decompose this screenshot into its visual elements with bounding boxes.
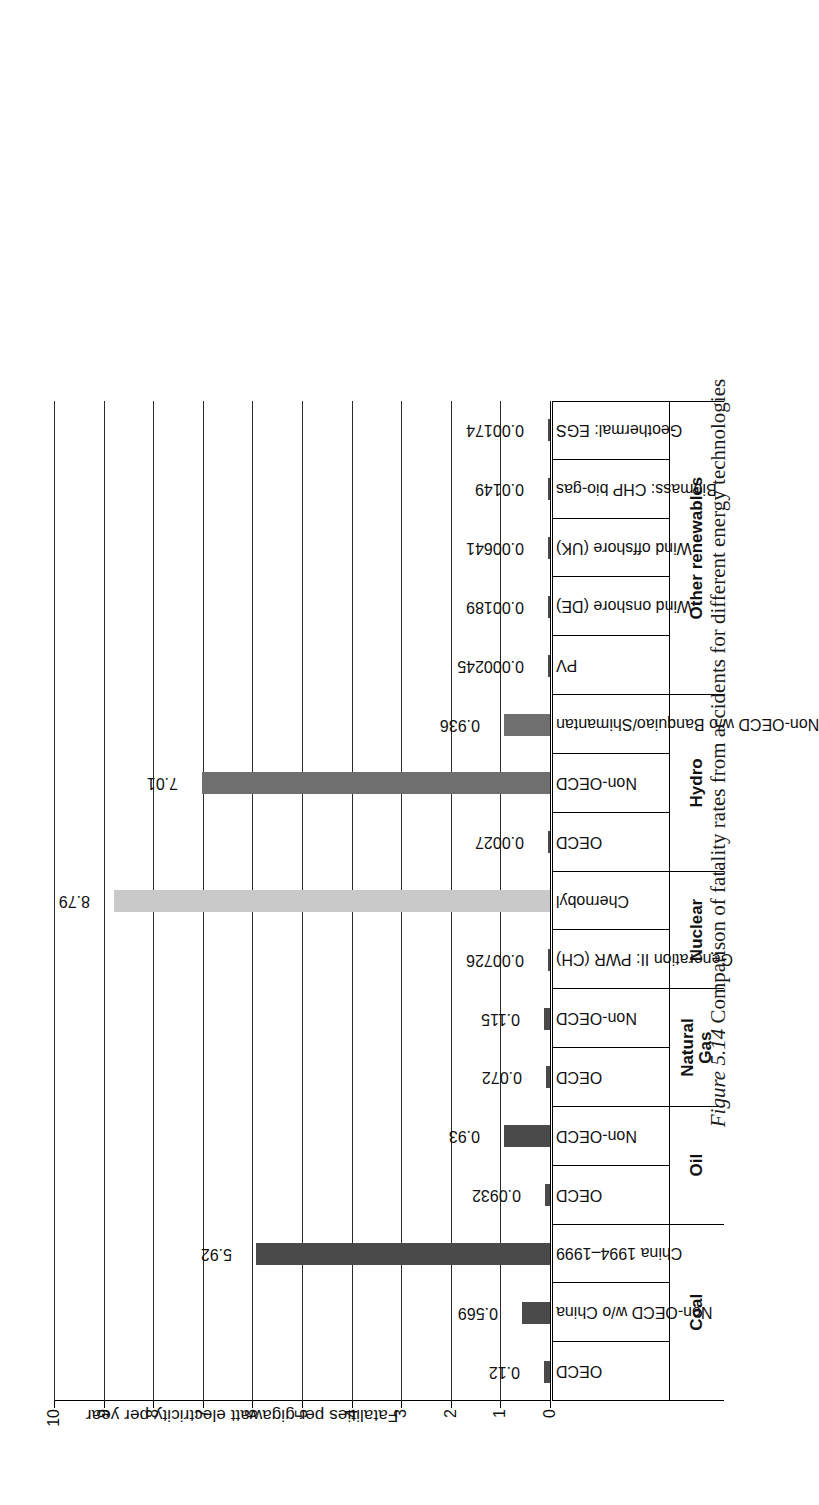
- bar: [548, 831, 550, 853]
- bar-slot: 7.01: [54, 753, 550, 812]
- category-cell: Generation II: PWR (CH): [552, 930, 670, 989]
- y-axis-tick-mark: [203, 1401, 204, 1408]
- category-cell: Biomass: CHP bio-gas: [552, 459, 670, 518]
- y-axis-tick-label: 9: [96, 1409, 112, 1435]
- y-axis-tick-label: 10: [46, 1409, 62, 1435]
- bar: [544, 1360, 550, 1382]
- y-axis-tick-label: 8: [145, 1409, 161, 1435]
- bar-series: 0.120.5695.920.09320.930.0720.1150.00726…: [54, 401, 550, 1401]
- y-axis-tick-mark: [401, 1401, 402, 1408]
- y-axis-tick-mark: [500, 1401, 501, 1408]
- y-axis-tick-label: 1: [492, 1409, 508, 1435]
- bar: [504, 1125, 550, 1147]
- y-axis-title: Fatalities per gigawatt electricity per …: [0, 1405, 552, 1425]
- category-cell: Non-OECD: [552, 753, 670, 812]
- y-axis-tick-label: 5: [294, 1409, 310, 1435]
- chart-frame: Fatalities per gigawatt electricity per …: [36, 33, 726, 1473]
- y-axis-tick-mark: [54, 1401, 55, 1408]
- category-cell: Non-OECD: [552, 1106, 670, 1165]
- bar-value-label: 0.000245: [457, 657, 524, 673]
- bar: [545, 1184, 550, 1206]
- category-label: OECD: [556, 1068, 602, 1084]
- bar-slot: 5.92: [54, 1224, 550, 1283]
- bar: [548, 478, 550, 500]
- bar-value-label: 0.00174: [466, 422, 524, 438]
- y-axis-tick-mark: [104, 1401, 105, 1408]
- bar-value-label: 0.569: [458, 1304, 498, 1320]
- y-axis-tick-label: 7: [195, 1409, 211, 1435]
- bar-value-label: 0.00189: [466, 598, 524, 614]
- bar: [548, 595, 550, 617]
- bar-value-label: 0.0149: [475, 481, 524, 497]
- category-cell: China 1994–1999: [552, 1224, 670, 1283]
- bar: [546, 1066, 550, 1088]
- category-cell: OECD: [552, 1048, 670, 1107]
- category-cell: Non-OECD w/o Banquiao/Shimantan: [552, 695, 670, 754]
- y-axis-tick-label: 4: [344, 1409, 360, 1435]
- y-axis-tick-mark: [550, 1401, 551, 1408]
- figure-number: Figure 5.14: [706, 1028, 730, 1126]
- y-axis-tick-mark: [352, 1401, 353, 1408]
- category-label: OECD: [556, 1186, 602, 1202]
- y-axis-tick-mark: [451, 1401, 452, 1408]
- bar-slot: 0.00726: [54, 930, 550, 989]
- bar-slot: 0.0149: [54, 459, 550, 518]
- bar-value-label: 0.00726: [466, 951, 524, 967]
- bar-value-label: 7.01: [147, 775, 178, 791]
- category-cell: PV: [552, 636, 670, 695]
- category-label: Geothermal: EGS: [556, 422, 682, 438]
- bar: [522, 1301, 550, 1323]
- category-cell: OECD: [552, 1342, 670, 1401]
- category-label: Non-OECD: [556, 1010, 637, 1026]
- bar-value-label: 0.0027: [475, 834, 524, 850]
- category-cell: Wind onshore (DE): [552, 577, 670, 636]
- bar-slot: 0.000245: [54, 636, 550, 695]
- figure-caption: Figure 5.14 Comparison of fatality rates…: [688, 0, 748, 1505]
- bar: [548, 537, 550, 559]
- bar-slot: 0.00641: [54, 518, 550, 577]
- bar-value-label: 0.115: [481, 1010, 520, 1026]
- y-axis-tick-mark: [302, 1401, 303, 1408]
- bar: [114, 890, 550, 912]
- bar-value-label: 5.92: [201, 1245, 232, 1261]
- bar: [544, 1007, 550, 1029]
- category-label: Chernobyl: [556, 892, 629, 908]
- bar-value-label: 0.12: [489, 1363, 520, 1379]
- bar: [504, 713, 550, 735]
- bar-slot: 0.12: [54, 1342, 550, 1401]
- bar: [256, 1242, 550, 1264]
- y-axis-tick-label: 6: [244, 1409, 260, 1435]
- category-label: OECD: [556, 833, 602, 849]
- bar-value-label: 0.936: [440, 716, 480, 732]
- y-axis-tick-mark: [252, 1401, 253, 1408]
- bar: [548, 948, 550, 970]
- bar-slot: 0.115: [54, 989, 550, 1048]
- bar-slot: 0.93: [54, 1106, 550, 1165]
- category-label: OECD: [556, 1363, 602, 1379]
- category-label: PV: [556, 657, 577, 673]
- category-label-band: OECDNon-OECD w/o ChinaChina 1994–1999OEC…: [552, 401, 670, 1401]
- y-axis-tick-label: 2: [443, 1409, 459, 1435]
- bar: [202, 772, 550, 794]
- bar-slot: 0.0027: [54, 812, 550, 871]
- bar-slot: 0.569: [54, 1283, 550, 1342]
- bar-value-label: 0.00641: [466, 540, 524, 556]
- category-cell: Non-OECD w/o China: [552, 1283, 670, 1342]
- bar: [548, 654, 550, 676]
- rotated-chart-frame: Fatalities per gigawatt electricity per …: [36, 33, 726, 1473]
- bar-slot: 0.072: [54, 1048, 550, 1107]
- bar-slot: 0.0932: [54, 1165, 550, 1224]
- y-axis-tick-label: 3: [393, 1409, 409, 1435]
- category-cell: Wind offshore (UK): [552, 518, 670, 577]
- bar-value-label: 0.0932: [472, 1187, 521, 1203]
- bar-slot: 0.00189: [54, 577, 550, 636]
- category-cell: Chernobyl: [552, 871, 670, 930]
- figure-caption-body: Comparison of fatality rates from accide…: [706, 378, 730, 1023]
- bar: [548, 419, 550, 441]
- category-cell: OECD: [552, 812, 670, 871]
- bar-slot: 0.936: [54, 695, 550, 754]
- category-cell: OECD: [552, 1165, 670, 1224]
- y-axis-tick-label: 0: [542, 1409, 558, 1435]
- category-cell: Non-OECD: [552, 989, 670, 1048]
